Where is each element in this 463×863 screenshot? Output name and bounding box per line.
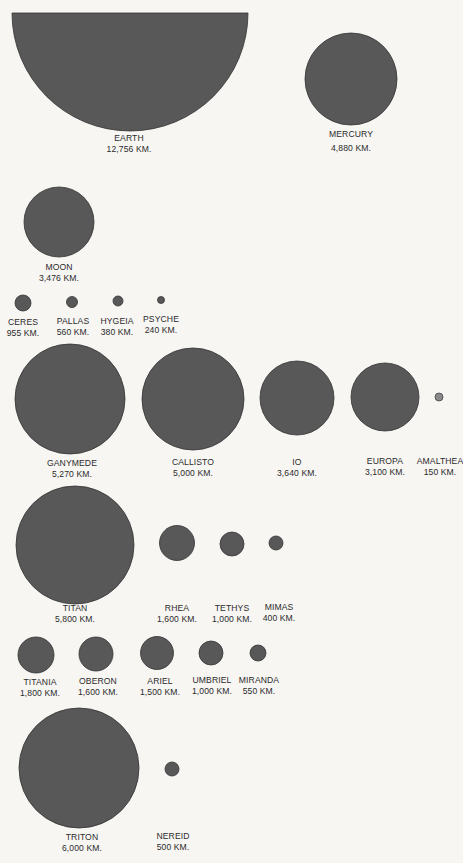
body-name: GANYMEDE bbox=[47, 458, 97, 469]
ariel-label: ARIEL 1,500 KM. bbox=[140, 676, 180, 698]
io-disc bbox=[260, 361, 334, 435]
amalthea-label: AMALTHEA 150 KM. bbox=[417, 456, 463, 478]
body-size: 1,600 KM. bbox=[78, 687, 118, 698]
europa-disc bbox=[351, 363, 419, 431]
body-name: EARTH bbox=[107, 133, 152, 144]
body-name: NEREID bbox=[156, 831, 189, 842]
miranda-label: MIRANDA 550 KM. bbox=[239, 675, 279, 697]
body-name: TRITON bbox=[62, 832, 102, 843]
mimas-label: MIMAS 400 KM. bbox=[263, 602, 296, 624]
body-size: 240 KM. bbox=[143, 325, 179, 336]
hygeia-disc bbox=[113, 296, 123, 306]
io-label: IO 3,640 KM. bbox=[277, 457, 317, 479]
body-name: CALLISTO bbox=[172, 457, 214, 468]
moon-disc bbox=[24, 187, 94, 257]
body-size: 560 KM. bbox=[57, 327, 90, 338]
ganymede-disc bbox=[15, 344, 125, 454]
body-name: MOON bbox=[39, 262, 79, 273]
body-name: HYGEIA bbox=[100, 316, 133, 327]
body-name: OBERON bbox=[78, 676, 118, 687]
body-name: MIMAS bbox=[263, 602, 296, 613]
body-size: 1,800 KM. bbox=[20, 688, 60, 699]
body-name: MIRANDA bbox=[239, 675, 279, 686]
titan-label: TITAN 5,800 KM. bbox=[55, 603, 95, 625]
body-size: 5,270 KM. bbox=[47, 469, 97, 480]
mercury-disc bbox=[305, 33, 397, 125]
body-size: 955 KM. bbox=[7, 328, 40, 339]
body-name: TITAN bbox=[55, 603, 95, 614]
callisto-disc bbox=[142, 348, 244, 450]
psyche-disc bbox=[158, 297, 165, 304]
body-name: CERES bbox=[7, 317, 40, 328]
body-size: 1,500 KM. bbox=[140, 687, 180, 698]
body-size: 3,640 KM. bbox=[277, 468, 317, 479]
body-size: 1,600 KM. bbox=[157, 614, 197, 625]
body-size: 3,476 KM. bbox=[39, 273, 79, 284]
body-size: 150 KM. bbox=[417, 467, 463, 478]
body-size: 500 KM. bbox=[156, 842, 189, 853]
mimas-disc bbox=[269, 536, 283, 550]
titania-disc bbox=[18, 637, 54, 673]
body-name: PSYCHE bbox=[143, 314, 179, 325]
body-size: 550 KM. bbox=[239, 686, 279, 697]
tethys-label: TETHYS 1,000 KM. bbox=[212, 603, 252, 625]
body-size: 3,100 KM. bbox=[365, 467, 405, 478]
ganymede-label: GANYMEDE 5,270 KM. bbox=[47, 458, 97, 480]
body-size: 400 KM. bbox=[263, 613, 296, 624]
body-name: AMALTHEA bbox=[417, 456, 463, 467]
earth-label: EARTH 12,756 KM. bbox=[107, 133, 152, 155]
miranda-disc bbox=[250, 645, 266, 661]
ceres-disc bbox=[15, 295, 31, 311]
pallas-label: PALLAS 560 KM. bbox=[57, 316, 90, 338]
callisto-label: CALLISTO 5,000 KM. bbox=[172, 457, 214, 479]
psyche-label: PSYCHE 240 KM. bbox=[143, 314, 179, 336]
body-name: MERCURY bbox=[329, 129, 373, 140]
body-size: 1,000 KM. bbox=[212, 614, 252, 625]
rhea-disc bbox=[160, 526, 195, 561]
body-size: 6,000 KM. bbox=[62, 843, 102, 854]
body-size: 5,000 KM. bbox=[172, 468, 214, 479]
body-name: TETHYS bbox=[212, 603, 252, 614]
triton-disc bbox=[19, 708, 139, 828]
amalthea-disc bbox=[435, 393, 443, 401]
ariel-disc bbox=[141, 637, 174, 670]
body-size: 12,756 KM. bbox=[107, 144, 152, 155]
body-size: 5,800 KM. bbox=[55, 614, 95, 625]
titania-label: TITANIA 1,800 KM. bbox=[20, 677, 60, 699]
tethys-disc bbox=[220, 532, 244, 556]
titan-disc bbox=[16, 486, 134, 604]
oberon-label: OBERON 1,600 KM. bbox=[78, 676, 118, 698]
hygeia-label: HYGEIA 380 KM. bbox=[100, 316, 133, 338]
ceres-label: CERES 955 KM. bbox=[7, 317, 40, 339]
body-name: RHEA bbox=[157, 603, 197, 614]
nereid-disc bbox=[165, 762, 179, 776]
moon-label: MOON 3,476 KM. bbox=[39, 262, 79, 284]
body-name: UMBRIEL bbox=[192, 675, 232, 686]
umbriel-disc bbox=[199, 641, 223, 665]
body-name: IO bbox=[277, 457, 317, 468]
body-name: TITANIA bbox=[20, 677, 60, 688]
body-size: 380 KM. bbox=[100, 327, 133, 338]
earth-half-disc bbox=[12, 13, 248, 131]
oberon-disc bbox=[79, 637, 113, 671]
pallas-disc bbox=[67, 297, 78, 308]
europa-label: EUROPA 3,100 KM. bbox=[365, 456, 405, 478]
mercury-label: MERCURY 4,880 KM. bbox=[329, 129, 373, 154]
triton-label: TRITON 6,000 KM. bbox=[62, 832, 102, 854]
nereid-label: NEREID 500 KM. bbox=[156, 831, 189, 853]
body-name: PALLAS bbox=[57, 316, 90, 327]
bodies-diagram bbox=[0, 0, 463, 863]
body-size: 4,880 KM. bbox=[329, 143, 373, 154]
umbriel-label: UMBRIEL 1,000 KM. bbox=[192, 675, 232, 697]
rhea-label: RHEA 1,600 KM. bbox=[157, 603, 197, 625]
body-name: EUROPA bbox=[365, 456, 405, 467]
body-name: ARIEL bbox=[140, 676, 180, 687]
body-size: 1,000 KM. bbox=[192, 686, 232, 697]
